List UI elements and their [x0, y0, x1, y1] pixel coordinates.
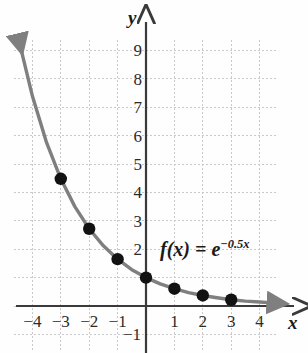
function-equation-label: f(x) = e−0.5x — [160, 239, 249, 259]
x-tick-label: −2 — [77, 313, 101, 330]
data-point — [55, 173, 67, 185]
plot-canvas — [0, 0, 308, 353]
data-point — [83, 223, 95, 235]
x-axis-label: x — [288, 313, 298, 332]
data-point — [168, 282, 180, 294]
x-tick-label: −3 — [49, 313, 73, 330]
y-tick-label: 8 — [126, 71, 142, 88]
function-equation-exponent: −0.5x — [220, 237, 249, 251]
y-axis-label: y — [128, 8, 136, 27]
y-tick-label: 6 — [126, 128, 142, 145]
data-point — [225, 294, 237, 306]
x-tick-label: 2 — [191, 313, 215, 330]
function-equation-base: e — [211, 238, 220, 260]
function-equation-lhs: f(x) = — [160, 238, 206, 260]
x-tick-label: 1 — [162, 313, 186, 330]
data-point — [111, 253, 123, 265]
x-tick-label: 3 — [219, 313, 243, 330]
y-tick-label: 4 — [126, 184, 142, 201]
y-tick-label: 9 — [126, 42, 142, 59]
data-point — [197, 289, 209, 301]
y-tick-label: 2 — [126, 241, 142, 258]
y-tick-label: −1 — [119, 326, 141, 343]
y-tick-label: 3 — [126, 213, 142, 230]
y-tick-label: 7 — [126, 99, 142, 116]
exponential-function-graph: y x −4−3−2−1123498765432−1 f(x) = e−0.5x — [0, 0, 308, 353]
axes — [16, 22, 294, 353]
x-tick-label: 4 — [248, 313, 272, 330]
x-tick-label: −4 — [20, 313, 44, 330]
y-tick-label: 5 — [126, 156, 142, 173]
data-point — [140, 271, 152, 283]
